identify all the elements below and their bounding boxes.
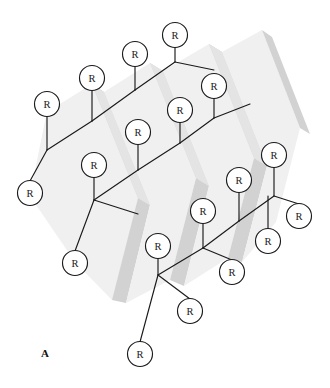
node-circle <box>168 98 193 123</box>
lattice-diagram: RRRRRRRRRRRRRRRRRRR <box>0 0 330 388</box>
node-r: R <box>146 234 171 259</box>
node-circle <box>163 23 188 48</box>
node-r: R <box>128 342 153 367</box>
node-circle <box>63 251 88 276</box>
node-r: R <box>126 120 151 145</box>
node-r: R <box>63 251 88 276</box>
node-circle <box>80 66 105 91</box>
node-r: R <box>227 168 252 193</box>
node-r: R <box>168 98 193 123</box>
node-r: R <box>18 181 43 206</box>
node-circle <box>82 153 107 178</box>
node-r: R <box>82 153 107 178</box>
node-circle <box>178 299 203 324</box>
node-r: R <box>220 260 245 285</box>
node-circle <box>35 92 60 117</box>
node-r: R <box>163 23 188 48</box>
node-circle <box>18 181 43 206</box>
node-circle <box>220 260 245 285</box>
figure-panel-a: RRRRRRRRRRRRRRRRRRR A <box>0 0 330 388</box>
node-circle <box>262 143 287 168</box>
node-circle <box>126 120 151 145</box>
node-circle <box>146 234 171 259</box>
node-r: R <box>202 74 227 99</box>
node-circle <box>256 229 281 254</box>
node-r: R <box>80 66 105 91</box>
node-r: R <box>191 199 216 224</box>
node-r: R <box>262 143 287 168</box>
panel-label: A <box>41 347 49 359</box>
node-circle <box>191 199 216 224</box>
node-r: R <box>123 42 148 67</box>
node-r: R <box>287 204 312 229</box>
node-circle <box>128 342 153 367</box>
node-circle <box>123 42 148 67</box>
node-circle <box>287 204 312 229</box>
node-circle <box>202 74 227 99</box>
node-circle <box>227 168 252 193</box>
node-r: R <box>256 229 281 254</box>
node-r: R <box>35 92 60 117</box>
node-r: R <box>178 299 203 324</box>
